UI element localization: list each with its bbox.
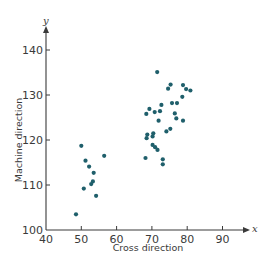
- data-point: [74, 212, 78, 216]
- data-point: [169, 83, 173, 87]
- data-point: [158, 109, 162, 113]
- data-point: [168, 127, 172, 131]
- data-point: [175, 101, 179, 105]
- data-point: [164, 129, 168, 133]
- data-point: [155, 70, 159, 74]
- data-point: [94, 194, 98, 198]
- data-point: [155, 148, 159, 152]
- y-axis-arrow-icon: [43, 26, 49, 33]
- data-point: [180, 95, 184, 99]
- data-point: [181, 83, 185, 87]
- data-point: [170, 101, 174, 105]
- axes: 405060708090100110120130140: [22, 26, 250, 246]
- data-point: [159, 103, 163, 107]
- data-point: [166, 87, 170, 91]
- data-point: [181, 119, 185, 123]
- data-point: [147, 107, 151, 111]
- data-points: [74, 70, 193, 216]
- data-point: [153, 110, 157, 114]
- scatter-chart: 405060708090100110120130140 Cross direct…: [0, 0, 265, 266]
- data-point: [145, 136, 149, 140]
- data-point: [102, 154, 106, 158]
- data-point: [161, 162, 165, 166]
- y-tick-label: 140: [22, 44, 43, 57]
- y-axis-title: Machine direction: [13, 98, 24, 182]
- data-point: [89, 182, 93, 186]
- y-tick-label: 110: [22, 179, 43, 192]
- data-point: [92, 171, 96, 175]
- data-point: [144, 112, 148, 116]
- data-point: [87, 165, 91, 169]
- data-point: [173, 111, 177, 115]
- data-point: [82, 187, 86, 191]
- data-point: [145, 133, 149, 137]
- y-tick-label: 130: [22, 89, 43, 102]
- y-tick-label: 120: [22, 134, 43, 147]
- data-point: [161, 157, 165, 161]
- data-point: [157, 119, 161, 123]
- data-point: [143, 156, 147, 160]
- y-axis-variable: y: [42, 15, 49, 26]
- data-point: [184, 87, 188, 91]
- data-point: [79, 144, 83, 148]
- data-point: [174, 116, 178, 120]
- y-tick-label: 100: [22, 224, 43, 237]
- x-tick-label: 50: [74, 233, 88, 246]
- x-axis-variable: x: [252, 223, 258, 234]
- data-point: [83, 159, 87, 163]
- data-point: [151, 134, 155, 138]
- x-axis-arrow-icon: [243, 227, 250, 233]
- x-tick-label: 90: [216, 233, 230, 246]
- data-point: [188, 88, 192, 92]
- x-axis-title: Cross direction: [113, 242, 184, 253]
